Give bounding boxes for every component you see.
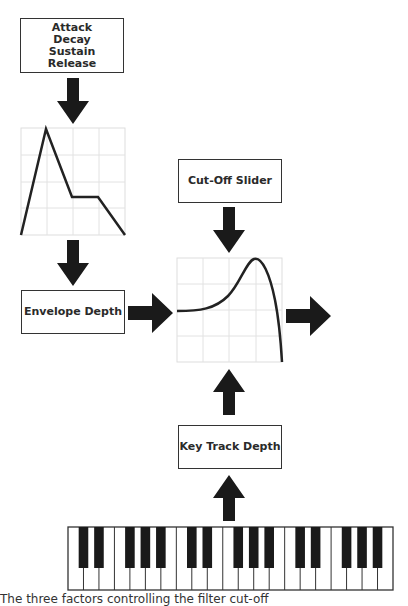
black-key	[94, 527, 104, 568]
black-key	[156, 527, 166, 568]
envelope-depth-box: Envelope Depth	[21, 290, 125, 334]
arrow-up-icon	[213, 369, 245, 415]
filter-response-graph	[177, 258, 282, 362]
black-key	[373, 527, 383, 568]
adsr-label-release: Release	[48, 58, 97, 70]
arrow-down-icon	[57, 78, 89, 124]
adsr-label-sustain: Sustain	[49, 46, 96, 58]
piano-keyboard	[68, 527, 393, 590]
arrow-up-icon	[213, 475, 245, 521]
adsr-envelope-graph	[21, 128, 125, 235]
black-key	[311, 527, 321, 568]
black-key	[249, 527, 259, 568]
black-key	[264, 527, 274, 568]
envelope-depth-label: Envelope Depth	[24, 306, 122, 318]
key-track-depth-label: Key Track Depth	[179, 441, 280, 453]
black-key	[202, 527, 212, 568]
black-key	[233, 527, 243, 568]
adsr-label-attack: Attack	[52, 22, 92, 34]
adsr-label-decay: Decay	[53, 34, 90, 46]
arrow-right-icon	[128, 293, 173, 333]
arrow-down-icon	[213, 207, 245, 253]
black-key	[342, 527, 352, 568]
black-key	[187, 527, 197, 568]
black-key	[357, 527, 367, 568]
black-key	[125, 527, 135, 568]
cutoff-slider-label: Cut-Off Slider	[188, 175, 272, 187]
figure-caption: The three factors controlling the filter…	[0, 592, 269, 606]
black-key	[79, 527, 89, 568]
cutoff-slider-box: Cut-Off Slider	[178, 159, 282, 203]
adsr-box: Attack Decay Sustain Release	[20, 18, 124, 73]
key-track-depth-box: Key Track Depth	[178, 425, 282, 469]
black-key	[141, 527, 151, 568]
arrow-right-icon	[286, 296, 331, 336]
arrow-down-icon	[57, 240, 89, 286]
black-key	[295, 527, 305, 568]
